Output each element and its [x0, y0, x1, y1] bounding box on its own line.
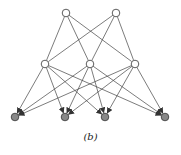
figure-caption: (b) — [0, 131, 181, 142]
edge-middle-bottom — [48, 66, 161, 116]
edge-middle-bottom — [46, 68, 63, 113]
top-node — [62, 9, 70, 17]
edge-top-middle — [117, 17, 133, 60]
output-node — [161, 113, 169, 121]
middle-node — [131, 60, 139, 68]
edge-middle-bottom — [68, 66, 132, 114]
edge-middle-bottom — [19, 66, 132, 116]
output-node — [61, 113, 69, 121]
output-node — [101, 113, 109, 121]
edge-middle-bottom — [67, 67, 89, 113]
output-node — [11, 113, 19, 121]
edge-top-middle — [69, 15, 131, 61]
top-node — [112, 9, 120, 17]
edge-middle-bottom — [107, 67, 133, 113]
middle-node — [86, 60, 94, 68]
edge-top-middle — [68, 16, 89, 60]
middle-node — [41, 60, 49, 68]
edge-top-middle — [47, 17, 65, 61]
edge-middle-bottom — [19, 66, 87, 114]
edge-top-middle — [92, 16, 114, 60]
edge-middle-bottom — [93, 66, 161, 114]
